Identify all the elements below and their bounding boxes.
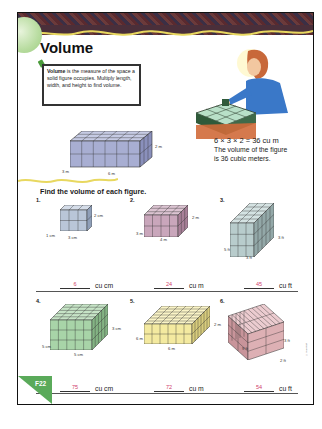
length-label: 3 ft <box>246 255 252 260</box>
problem-3: 3. 3 ft 5 ft 3 ft 45 cu ft <box>220 197 314 292</box>
example-equation: 6 × 3 × 2 = 36 cu m <box>214 136 287 145</box>
answer-field[interactable]: 24 <box>154 281 184 289</box>
example-prism: 3 m 6 m 2 m <box>70 131 158 175</box>
answer-row: 72 cu m <box>154 384 204 392</box>
example-length-label: 6 m <box>108 171 115 176</box>
row-separator <box>36 393 298 394</box>
example-width-label: 3 m <box>62 169 69 174</box>
problem-number: 3. <box>220 197 225 203</box>
row-separator <box>36 291 298 292</box>
width-label: 6 m <box>136 336 143 341</box>
height-label: 2 cm <box>94 213 103 218</box>
definition-term: Volume <box>47 68 65 74</box>
page-title: Volume <box>40 39 93 56</box>
length-label: 4 m <box>160 237 167 242</box>
definition-box: Volume is the measure of the space a sol… <box>42 64 141 106</box>
length-label: 3 cm <box>68 235 77 240</box>
copyright-notice: © Harcourt <box>305 343 308 356</box>
worksheet-page: Volume Volume is the measure of the spac… <box>17 12 314 405</box>
answer-row: 6 cu cm <box>60 281 113 289</box>
instructions: Find the volume of each figure. <box>40 187 146 196</box>
answer-row: 45 cu ft <box>244 281 292 289</box>
page-number: F22 <box>35 380 46 387</box>
example-height-label: 2 m <box>155 144 162 149</box>
unit-label: cu cm <box>95 282 113 289</box>
problem-number: 4. <box>36 298 41 304</box>
answer-row: 75 cu cm <box>60 384 113 392</box>
answer-field[interactable]: 45 <box>244 281 274 289</box>
length-label: 2 ft <box>280 358 286 363</box>
unit-label: cu ft <box>279 282 292 289</box>
width-label: 5 cm <box>42 344 51 349</box>
example-explanation-line1: The volume of the figure <box>214 145 287 154</box>
unit-label: cu m <box>189 282 204 289</box>
problem-6: 6. 3 ft 9 ft 2 ft 54 cu ft <box>220 298 314 393</box>
problem-number: 6. <box>220 298 225 304</box>
unit-label: cu m <box>189 385 204 392</box>
unit-label: cu cm <box>95 385 113 392</box>
length-label: 5 cm <box>74 352 83 357</box>
answer-field[interactable]: 75 <box>60 384 90 392</box>
answer-row: 24 cu m <box>154 281 204 289</box>
height-label: 3 cm <box>112 326 121 331</box>
height-label: 3 ft <box>284 338 290 343</box>
width-label: 1 cm <box>46 233 55 238</box>
width-label: 5 ft <box>224 247 230 252</box>
problem-number: 5. <box>130 298 135 304</box>
width-label: 9 ft <box>242 346 248 351</box>
problem-2: 2. 2 m 3 m 4 m 24 cu m <box>130 197 225 292</box>
answer-row: 54 cu ft <box>244 384 292 392</box>
problem-number: 2. <box>130 197 135 203</box>
answer-field[interactable]: 72 <box>154 384 184 392</box>
example-explanation-line2: is 36 cubic meters. <box>214 154 287 163</box>
girl-with-cube-box-illustration <box>196 43 306 139</box>
height-label: 2 m <box>192 215 199 220</box>
unit-label: cu ft <box>279 385 292 392</box>
problem-number: 1. <box>36 197 41 203</box>
height-label: 3 ft <box>278 235 284 240</box>
section-divider-wave <box>18 177 118 185</box>
problem-1: 1. 2 cm 1 cm 3 cm 6 cu cm <box>36 197 131 292</box>
answer-field[interactable]: 54 <box>244 384 274 392</box>
problem-5: 5. 2 m 6 m 6 m 72 cu m <box>130 298 225 393</box>
example-explanation: 6 × 3 × 2 = 36 cu m The volume of the fi… <box>214 136 287 163</box>
length-label: 6 m <box>168 346 175 351</box>
width-label: 3 m <box>136 231 143 236</box>
answer-field[interactable]: 6 <box>60 281 90 289</box>
